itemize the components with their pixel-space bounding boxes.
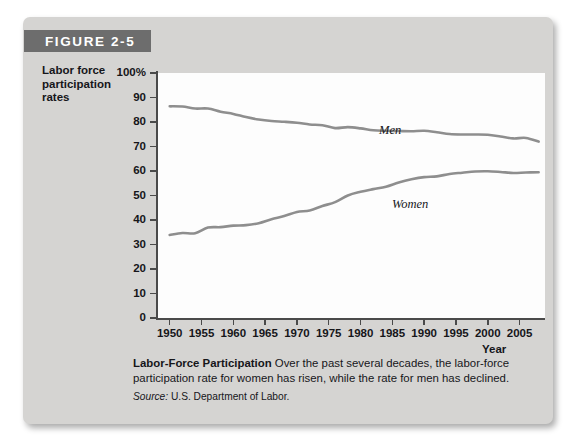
y-axis-tick-label: 20 (100, 262, 146, 274)
y-axis-tick (150, 317, 156, 319)
y-axis-tick-label: 0 (100, 311, 146, 323)
y-axis-tick-label: 40 (100, 213, 146, 225)
y-axis-tick (150, 219, 156, 221)
caption-source-text: U.S. Department of Labor. (168, 391, 289, 402)
x-axis-tick (392, 319, 394, 325)
x-axis-tick (169, 319, 171, 325)
y-axis-tick-label: 30 (100, 238, 146, 250)
x-axis-tick-label: 2005 (500, 327, 540, 339)
x-axis-tick (201, 319, 203, 325)
x-axis-tick (360, 319, 362, 325)
y-axis-tick (150, 268, 156, 270)
caption-source: Source: U.S. Department of Labor. (133, 391, 539, 402)
figure-caption: Labor-Force Participation Over the past … (133, 356, 539, 402)
y-axis-tick-label: 60 (100, 164, 146, 176)
y-axis-tick-label: 10 (100, 287, 146, 299)
y-axis-tick (150, 72, 156, 74)
x-axis-title: Year (482, 343, 506, 355)
x-axis-tick (264, 319, 266, 325)
x-axis-tick (296, 319, 298, 325)
y-axis-tick (150, 146, 156, 148)
y-axis-tick (150, 244, 156, 246)
y-axis-tick-label: 80 (100, 115, 146, 127)
y-axis-tick-label: 50 (100, 189, 146, 201)
x-axis-tick (455, 319, 457, 325)
y-axis-tick (150, 170, 156, 172)
x-axis-tick (328, 319, 330, 325)
y-axis-tick (150, 195, 156, 197)
x-axis-tick (233, 319, 235, 325)
series-lines (157, 73, 545, 318)
figure-panel: FIGURE 2-5 Labor force participation rat… (23, 17, 553, 424)
series-line-women (170, 171, 539, 235)
series-line-men (170, 106, 539, 141)
y-axis-tick-label: 70 (100, 140, 146, 152)
series-label-women: Women (392, 197, 428, 212)
series-label-men: Men (379, 123, 401, 138)
y-axis-tick (150, 97, 156, 99)
y-axis-tick-label: 90 (100, 91, 146, 103)
y-axis-tick (150, 293, 156, 295)
caption-source-label: Source: (133, 391, 168, 402)
x-axis-tick (519, 319, 521, 325)
x-axis-tick (423, 319, 425, 325)
y-axis-tick-label: 100% (100, 66, 146, 78)
caption-text: Labor-Force Participation Over the past … (133, 356, 539, 385)
y-axis-tick (150, 121, 156, 123)
x-axis-tick (487, 319, 489, 325)
caption-title: Labor-Force Participation (133, 357, 272, 369)
